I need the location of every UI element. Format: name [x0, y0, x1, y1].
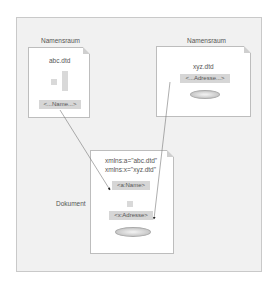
- arrows-layer: [0, 0, 276, 287]
- arrow-adresse: [154, 82, 170, 219]
- arrow-name: [60, 110, 110, 190]
